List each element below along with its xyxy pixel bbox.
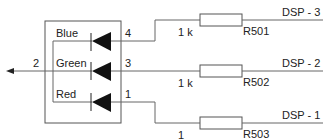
resistor-ref: R501 [243,25,269,37]
diode-triangle-icon [92,93,111,112]
pin-label: 3 [125,57,131,69]
led-color-label: Red [56,88,76,100]
resistor-value: 1 [178,129,184,140]
wire [111,102,200,123]
resistor-ref: R502 [243,76,269,88]
rgb-led-schematic: 2 Blue 4 1 k R501 DSP - 3 Green 3 1 k R5… [0,0,330,140]
resistor-r501 [200,14,242,26]
signal-label: DSP - 1 [282,109,320,121]
pin-label: 4 [125,27,131,39]
led-red: Red 1 1 R503 DSP - 1 [56,88,323,140]
diode-triangle-icon [92,62,111,81]
resistor-ref: R503 [243,128,269,140]
signal-label: DSP - 3 [282,6,320,18]
resistor-value: 1 k [178,26,193,38]
common-pin-label: 2 [33,57,39,69]
resistor-r503 [200,117,242,129]
diode-triangle-icon [92,32,111,51]
led-color-label: Blue [56,27,78,39]
resistor-value: 1 k [178,77,193,89]
signal-label: DSP - 2 [282,57,320,69]
pin-label: 1 [125,88,131,100]
led-green: Green 3 1 k R502 DSP - 2 [56,57,323,89]
resistor-r502 [200,65,242,77]
led-color-label: Green [56,57,87,69]
led-blue: Blue 4 1 k R501 DSP - 3 [56,6,323,51]
arrow-left-icon [6,68,14,74]
